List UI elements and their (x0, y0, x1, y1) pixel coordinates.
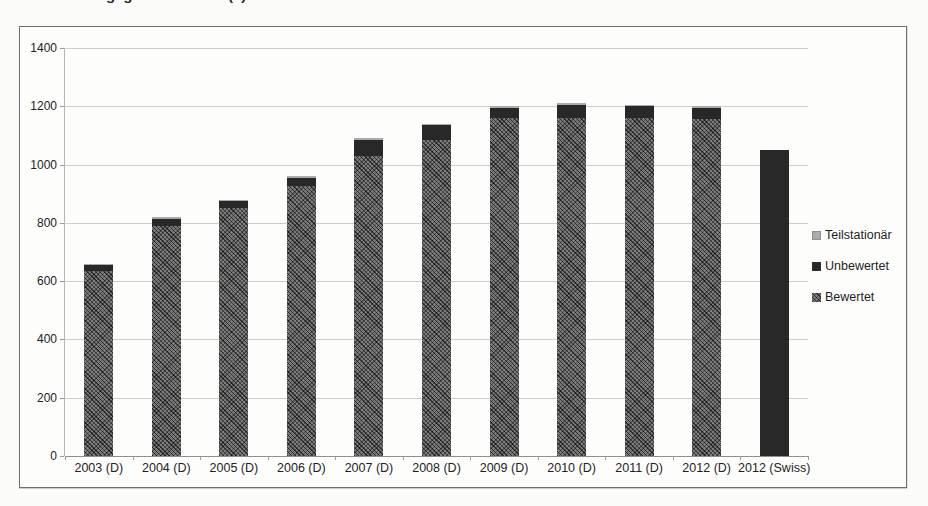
y-axis-tick (60, 398, 64, 402)
y-axis-tick (60, 106, 64, 110)
x-axis-label: 2007 (D) (345, 461, 394, 475)
legend-item-bewertet: Bewertet (812, 290, 904, 304)
x-axis-label: 2009 (D) (480, 461, 529, 475)
y-axis-label: 1000 (30, 158, 57, 172)
x-axis-tick (335, 456, 336, 460)
bar-segment-unbewertet (760, 150, 789, 456)
x-axis-label: 2006 (D) (277, 461, 326, 475)
bar-segment-unbewertet (287, 178, 316, 187)
x-axis-tick (65, 456, 66, 460)
y-axis-label: 600 (37, 274, 57, 288)
y-axis-label: 400 (37, 332, 57, 346)
x-axis-label: 2004 (D) (142, 461, 191, 475)
x-axis-tick (133, 456, 134, 460)
x-axis-label: 2012 (D) (682, 461, 731, 475)
legend-swatch-bewertet-icon (812, 293, 821, 302)
y-axis-label: 0 (50, 449, 57, 463)
gridline-0 (65, 456, 808, 457)
bar-segment-unbewertet (692, 108, 721, 120)
x-axis-tick (200, 456, 201, 460)
x-axis-label: 2011 (D) (615, 461, 663, 475)
plot-area: 02004006008001000120014002003 (D)2004 (D… (64, 48, 808, 456)
legend-item-unbewertet: Unbewertet (812, 259, 904, 273)
legend-label: Unbewertet (825, 259, 889, 273)
x-axis-label: 2010 (D) (547, 461, 596, 475)
bar-segment-teilstationaer (287, 176, 316, 177)
caption-fragment: g g (106, 0, 135, 3)
gridline-1400 (65, 48, 808, 49)
x-axis-label: 2012 (Swiss) (738, 461, 810, 475)
y-axis-tick (60, 456, 64, 460)
bar-segment-bewertet (354, 156, 383, 456)
y-axis-label: 1400 (30, 41, 57, 55)
bar-segment-teilstationaer (490, 106, 519, 107)
y-axis-label: 200 (37, 391, 57, 405)
bar-segment-teilstationaer (422, 124, 451, 125)
x-axis-tick (673, 456, 674, 460)
chart-frame: 02004006008001000120014002003 (D)2004 (D… (19, 26, 907, 488)
x-axis-label: 2003 (D) (74, 461, 123, 475)
y-axis-label: 800 (37, 216, 57, 230)
bar-segment-teilstationaer (219, 200, 248, 201)
bar-segment-bewertet (152, 226, 181, 456)
bar-segment-bewertet (692, 119, 721, 456)
x-axis-tick (605, 456, 606, 460)
x-axis-tick (268, 456, 269, 460)
bar-segment-bewertet (422, 140, 451, 456)
y-axis-tick (60, 48, 64, 52)
bar-segment-unbewertet (219, 201, 248, 208)
bar-segment-teilstationaer (152, 217, 181, 218)
caption-fragment: ( ) (228, 0, 248, 3)
x-axis-tick (470, 456, 471, 460)
bar-segment-teilstationaer (625, 105, 654, 106)
bar-segment-unbewertet (422, 125, 451, 140)
legend-item-teilstationaer: Teilstationär (812, 228, 904, 242)
y-axis-tick (60, 281, 64, 285)
bar-segment-unbewertet (490, 108, 519, 118)
bar-segment-bewertet (490, 118, 519, 456)
bar-segment-bewertet (557, 118, 586, 456)
legend: Teilstationär Unbewertet Bewertet (812, 228, 904, 321)
bar-segment-unbewertet (354, 140, 383, 156)
bar-segment-bewertet (84, 271, 113, 456)
bar-segment-bewertet (287, 186, 316, 456)
x-axis-label: 2005 (D) (210, 461, 259, 475)
bar-segment-unbewertet (625, 106, 654, 118)
bar-segment-bewertet (219, 208, 248, 456)
bar-segment-teilstationaer (692, 106, 721, 107)
bar-segment-unbewertet (84, 265, 113, 271)
y-axis-label: 1200 (30, 99, 57, 113)
bar-segment-teilstationaer (354, 138, 383, 139)
legend-swatch-unbewertet-icon (812, 262, 821, 271)
y-axis-tick (60, 223, 64, 227)
x-axis-tick (538, 456, 539, 460)
x-axis-tick (808, 456, 809, 460)
bar-segment-teilstationaer (557, 103, 586, 104)
y-axis-tick (60, 165, 64, 169)
legend-label: Teilstationär (825, 228, 892, 242)
cropped-caption-strip: g g( ) (0, 0, 928, 9)
legend-swatch-teilstationaer-icon (812, 231, 821, 240)
bar-segment-unbewertet (557, 105, 586, 118)
legend-label: Bewertet (825, 290, 874, 304)
y-axis-tick (60, 339, 64, 343)
bar-segment-unbewertet (152, 219, 181, 226)
bar-segment-bewertet (625, 118, 654, 456)
x-axis-label: 2008 (D) (412, 461, 461, 475)
x-axis-tick (740, 456, 741, 460)
bar-segment-teilstationaer (84, 264, 113, 265)
x-axis-tick (403, 456, 404, 460)
